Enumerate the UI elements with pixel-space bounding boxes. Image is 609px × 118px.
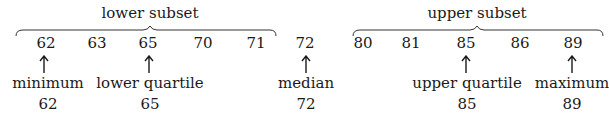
upper-value-1: 80	[353, 36, 372, 51]
lower-value-1: 62	[36, 36, 55, 51]
upper-value-5: 89	[563, 36, 582, 51]
lower-quartile-value: 65	[140, 97, 159, 112]
lower-subset-title: lower subset	[101, 6, 198, 21]
upper-value-2: 81	[401, 36, 420, 51]
median-value: 72	[296, 97, 315, 112]
lower-value-3: 65	[138, 36, 157, 51]
upper-value-4: 86	[510, 36, 529, 51]
lower-quartile-arrow-icon	[144, 55, 154, 73]
lower-quartile-label: lower quartile	[96, 76, 203, 91]
upper-quartile-arrow-icon	[461, 55, 471, 73]
minimum-label: minimum	[12, 76, 84, 91]
minimum-arrow-icon	[39, 55, 49, 73]
maximum-arrow-icon	[567, 55, 577, 73]
upper-subset-title: upper subset	[427, 6, 526, 21]
upper-value-3: 85	[456, 36, 475, 51]
lower-value-2: 63	[87, 36, 106, 51]
maximum-label: maximum	[535, 76, 609, 91]
median-label: median	[278, 76, 334, 91]
upper-quartile-label: upper quartile	[412, 76, 522, 91]
lower-value-5: 71	[246, 36, 265, 51]
maximum-value: 89	[562, 97, 581, 112]
lower-value-4: 70	[193, 36, 212, 51]
upper-quartile-value: 85	[457, 97, 476, 112]
median-arrow-icon	[301, 55, 311, 73]
median-number: 72	[295, 36, 314, 51]
minimum-value: 62	[38, 97, 57, 112]
